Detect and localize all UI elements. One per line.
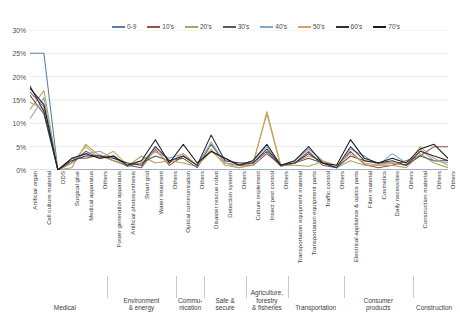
legend-swatch-icon xyxy=(185,26,198,28)
series-line-70-s xyxy=(30,88,448,170)
x-axis-category-label: Fiber material xyxy=(367,171,373,208)
x-axis-category-label: Others xyxy=(199,171,205,189)
y-axis-tick-label: 20% xyxy=(12,73,26,80)
x-axis-category-label: Transportation equipment parts xyxy=(311,171,317,255)
x-axis-category-label: DDS xyxy=(60,171,66,184)
x-axis-category-label: Others xyxy=(408,171,414,189)
series-line-40-s xyxy=(30,98,448,170)
x-axis-category-labels: Artificial organCell culture materialDDS… xyxy=(30,171,448,279)
x-axis-category-label: Cell culture material xyxy=(46,171,52,225)
x-axis-category-label: Smart grid xyxy=(144,171,150,199)
x-axis-category-label: Others xyxy=(339,171,345,189)
group-separator xyxy=(413,276,414,298)
x-axis-category-label: Others xyxy=(436,171,442,189)
x-axis-category-label: Transportation equipment material xyxy=(297,171,303,264)
x-axis-category-label: Electrical appliance & optics parts xyxy=(353,171,359,262)
legend-swatch-icon xyxy=(147,26,160,28)
y-axis-tick-label: 10% xyxy=(12,120,26,127)
group-separator xyxy=(288,276,289,298)
x-axis-category-label: Traffic control xyxy=(325,171,331,208)
x-axis-category-label: Artificial photosynthesis xyxy=(130,171,136,235)
x-axis-category-label: Others xyxy=(241,171,247,189)
series-line-30-s xyxy=(30,95,448,170)
x-axis-category-label: Construction material xyxy=(422,171,428,229)
series-line-20-s xyxy=(30,91,448,170)
series-line-10-s xyxy=(30,92,448,170)
y-axis-tick-label: 0% xyxy=(16,167,26,174)
group-separator xyxy=(176,276,177,298)
x-axis-group-label: Construction xyxy=(406,304,460,312)
group-separator xyxy=(107,276,108,298)
legend-swatch-icon xyxy=(373,26,386,28)
x-axis-category-label: Artificial organ xyxy=(32,171,38,210)
group-separator xyxy=(204,276,205,298)
legend-swatch-icon xyxy=(336,26,349,28)
legend-swatch-icon xyxy=(112,26,125,28)
y-axis-tick-label: 15% xyxy=(12,97,26,104)
group-separator xyxy=(344,276,345,298)
x-axis-category-label: Others xyxy=(450,171,456,189)
x-axis-category-label: Medical apparatus xyxy=(88,171,94,221)
x-axis-group-labels: MedicalEnvironment& energyCommu-nication… xyxy=(30,286,448,312)
x-axis-category-label: Optical communication xyxy=(185,171,191,233)
legend-swatch-icon xyxy=(223,26,236,28)
x-axis-category-label: Disaster rescue robot xyxy=(213,171,219,229)
x-axis-category-label: Surgical glue xyxy=(74,171,80,206)
x-axis-category-label: Insect pest control xyxy=(269,171,275,220)
x-axis-category-label: Others xyxy=(102,171,108,189)
legend-swatch-icon xyxy=(298,26,311,28)
x-axis-category-label: Detection system xyxy=(227,171,233,218)
x-axis-category-label: Others xyxy=(283,171,289,189)
plot-svg xyxy=(30,30,448,170)
x-axis-category-label: Power generation apparatus xyxy=(116,171,122,248)
legend-swatch-icon xyxy=(260,26,273,28)
x-axis-category-label: Others xyxy=(172,171,178,189)
series-line-60-s xyxy=(30,86,448,170)
plot-area xyxy=(30,30,448,170)
y-axis-tick-label: 30% xyxy=(12,27,26,34)
x-axis-category-label: Culture implement xyxy=(255,171,261,220)
x-axis-category-label: Daily necessities xyxy=(394,171,400,216)
y-axis-tick-label: 5% xyxy=(16,143,26,150)
y-axis: 0%5%10%15%20%25%30% xyxy=(0,24,28,176)
x-axis-category-label: Cosmetics xyxy=(381,171,387,199)
x-axis-category-label: Water treatment xyxy=(158,171,164,214)
y-axis-tick-label: 25% xyxy=(12,50,26,57)
